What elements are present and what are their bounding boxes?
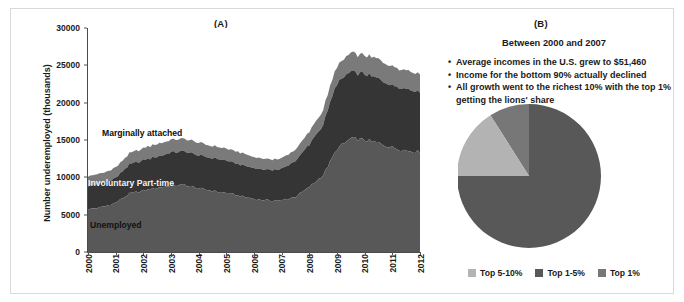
x-tick-mark — [337, 252, 338, 255]
x-tick-mark — [143, 252, 144, 255]
x-tick-mark — [226, 252, 227, 255]
x-tick-mark — [254, 252, 255, 255]
x-tick-label: 2007 — [277, 254, 287, 273]
y-tick-label: 10000 — [56, 172, 80, 182]
x-tick-label: 2011 — [388, 254, 398, 272]
x-tick-mark — [420, 252, 421, 255]
x-tick-label: 2012 — [416, 254, 426, 273]
pie-chart — [458, 102, 654, 250]
x-tick-mark — [199, 252, 200, 255]
legend-swatch — [598, 269, 606, 277]
x-axis-ticks: 2000200120022003200420052006200720082009… — [88, 254, 422, 294]
y-tick-label: 25000 — [56, 60, 80, 70]
y-tick-label: 20000 — [56, 98, 80, 108]
x-tick-label: 2005 — [222, 254, 232, 273]
panel-a-stacked-area-chart: (A) Number underemployed (thousands) 050… — [14, 10, 434, 292]
legend-label: Top 1-5% — [547, 268, 585, 278]
legend-item: Top 1-5% — [535, 268, 585, 278]
x-tick-label: 2001 — [111, 254, 121, 273]
y-tick-label: 5000 — [61, 210, 80, 220]
panel-b-bullet-list: Average incomes in the U.S. grew to $51,… — [448, 56, 673, 106]
x-tick-label: 2010 — [360, 254, 370, 273]
legend-label: Top 5-10% — [480, 268, 522, 278]
x-tick-label: 2004 — [194, 254, 204, 273]
pie-legend: Top 5-10%Top 1-5%Top 1% — [434, 268, 674, 278]
stacked-area-svg — [88, 28, 420, 252]
x-tick-label: 2009 — [333, 254, 343, 273]
x-tick-label: 2008 — [305, 254, 315, 273]
x-tick-mark — [116, 252, 117, 255]
legend-label: Top 1% — [610, 268, 640, 278]
x-tick-mark — [392, 252, 393, 255]
x-tick-mark — [171, 252, 172, 255]
panel-b-heading: Between 2000 and 2007 — [434, 38, 674, 48]
y-tick-label: 0 — [75, 247, 80, 257]
panel-b-bullet: Income for the bottom 90% actually decli… — [448, 69, 673, 82]
x-tick-label: 2003 — [167, 254, 177, 273]
y-tick-label: 15000 — [56, 135, 80, 145]
x-tick-label: 2002 — [139, 254, 149, 273]
panel-b-income-share: (B) Between 2000 and 2007 Average income… — [434, 10, 674, 292]
x-tick-label: 2000 — [84, 254, 94, 273]
legend-swatch — [535, 269, 543, 277]
legend-item: Top 1% — [598, 268, 640, 278]
panel-b-tag: (B) — [534, 18, 548, 29]
x-tick-mark — [309, 252, 310, 255]
x-tick-mark — [365, 252, 366, 255]
pie-chart-svg — [458, 102, 654, 250]
plot-area — [88, 28, 420, 252]
x-tick-mark — [282, 252, 283, 255]
x-tick-mark — [88, 252, 89, 255]
legend-item: Top 5-10% — [468, 268, 522, 278]
y-tick-label: 30000 — [56, 23, 80, 33]
legend-swatch — [468, 269, 476, 277]
panel-b-bullet: Average incomes in the U.S. grew to $51,… — [448, 56, 673, 69]
figure-root: (A) Number underemployed (thousands) 050… — [0, 0, 684, 302]
x-tick-label: 2006 — [250, 254, 260, 273]
y-axis-ticks: 050001000015000200002500030000 — [32, 28, 84, 252]
